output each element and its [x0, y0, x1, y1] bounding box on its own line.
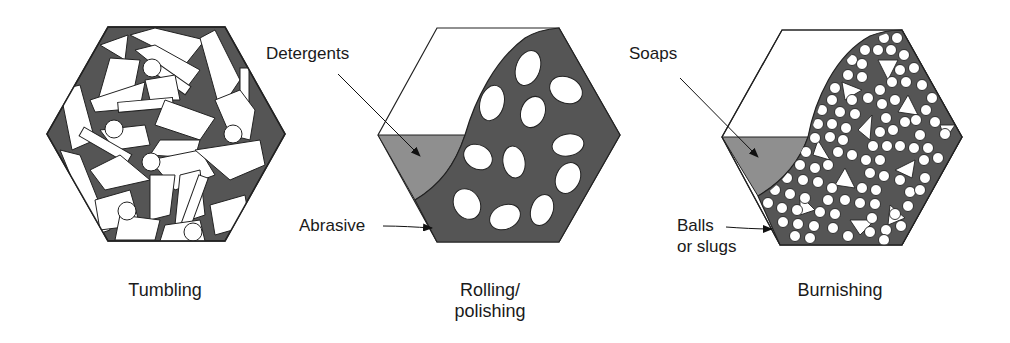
callout-balls-line1: Balls — [677, 216, 714, 236]
caption-rolling-line2: polishing — [430, 300, 550, 322]
abrasive-arrow — [383, 226, 432, 228]
callout-abrasive: Abrasive — [299, 216, 365, 236]
rolling-barrel — [338, 28, 620, 242]
caption-burnishing: Burnishing — [770, 279, 910, 301]
callout-detergents: Detergents — [266, 44, 349, 64]
tumbling-barrel — [47, 27, 285, 241]
caption-tumbling: Tumbling — [100, 279, 230, 301]
callout-soaps: Soaps — [629, 44, 677, 64]
callout-balls-line2: or slugs — [677, 237, 737, 257]
balls-arrow — [726, 227, 772, 229]
caption-rolling-line1: Rolling/ — [430, 279, 550, 301]
burnishing-barrel — [680, 30, 962, 246]
